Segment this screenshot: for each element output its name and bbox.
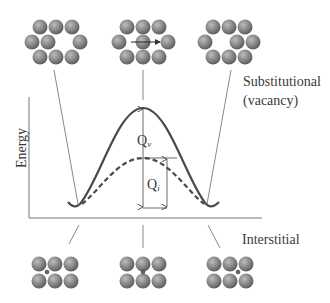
qv-label-main: Q: [137, 133, 147, 148]
top-atom-cluster-initial: [25, 20, 88, 65]
bottom-atom-cluster-transition: [120, 257, 167, 289]
top-atom-cluster-transition: [112, 20, 176, 65]
substitutional-label-line2: (vacancy): [243, 91, 321, 110]
diffusion-energy-diagram: [0, 0, 330, 303]
qi-label-main: Q: [147, 177, 157, 192]
substitutional-energy-curve: [68, 108, 219, 206]
interstitial-label: Interstitial: [242, 232, 300, 248]
substitutional-label: Substitutional (vacancy): [243, 72, 321, 110]
bottom-atom-cluster-final: [207, 257, 254, 289]
top-atom-cluster-final: [198, 20, 261, 65]
qi-label: Qi: [147, 177, 160, 193]
qv-label-sub: v: [147, 139, 151, 149]
interstitial-atom: [141, 270, 145, 274]
interstitial-atom: [236, 270, 240, 274]
bottom-leader-lines: [69, 225, 220, 248]
interstitial-atom: [45, 270, 49, 274]
substitutional-label-line1: Substitutional: [243, 72, 321, 91]
qi-label-sub: i: [157, 183, 160, 193]
y-axis-label: Energy: [14, 123, 30, 173]
qv-label: Qv: [137, 133, 151, 149]
bottom-atom-cluster-initial: [32, 257, 79, 289]
